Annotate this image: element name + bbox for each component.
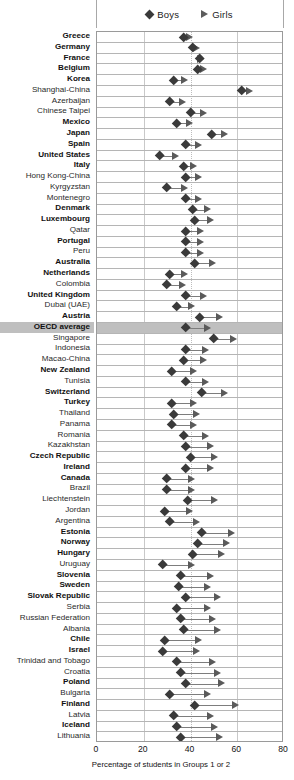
data-point-girls xyxy=(195,195,202,203)
legend-item-girls: Girls xyxy=(201,9,233,20)
table-row xyxy=(97,560,282,571)
category-label-dubai-uae: Dubai (UAE) xyxy=(45,300,90,311)
table-row xyxy=(97,43,282,54)
gender-gap-connector xyxy=(186,684,221,685)
data-point-girls xyxy=(230,335,237,343)
diamond-icon xyxy=(145,9,155,19)
data-point-boys xyxy=(178,431,188,441)
table-row xyxy=(97,280,282,291)
table-row xyxy=(97,603,282,614)
data-point-boys xyxy=(176,668,186,678)
data-point-girls xyxy=(216,313,223,321)
table-row xyxy=(97,366,282,377)
data-point-boys xyxy=(171,118,181,128)
data-point-girls xyxy=(193,647,200,655)
data-point-girls xyxy=(188,486,195,494)
table-row xyxy=(97,226,282,237)
data-point-girls xyxy=(195,141,202,149)
category-label-tunisia: Tunisia xyxy=(64,376,90,387)
table-row xyxy=(97,258,282,269)
chart-page: Boys Girls GreeceGermanyFranceBelgiumKor… xyxy=(0,0,294,780)
category-label-korea: Korea xyxy=(67,74,90,85)
data-point-girls xyxy=(179,98,186,106)
category-label-canada: Canada xyxy=(61,473,90,484)
data-point-boys xyxy=(171,301,181,311)
table-row xyxy=(97,484,282,495)
data-point-girls xyxy=(207,216,214,224)
category-label-montenegro: Montenegro xyxy=(47,193,90,204)
category-label-turkey: Turkey xyxy=(64,397,90,408)
data-point-boys xyxy=(185,452,195,462)
category-label-norway: Norway xyxy=(61,537,90,548)
category-label-hungary: Hungary xyxy=(57,548,90,559)
category-label-israel: Israel xyxy=(69,645,90,656)
category-label-oecd-average: OECD average xyxy=(0,322,94,333)
data-point-girls xyxy=(186,119,193,127)
category-label-austria: Austria xyxy=(62,311,90,322)
table-row xyxy=(97,711,282,722)
category-label-singapore: Singapore xyxy=(53,333,90,344)
category-label-sweden: Sweden xyxy=(59,580,90,591)
category-label-trinidad-and-tobago: Trinidad and Tobago xyxy=(17,656,90,667)
data-point-boys xyxy=(160,635,170,645)
data-point-girls xyxy=(223,539,230,547)
data-point-girls xyxy=(190,399,197,407)
data-point-boys xyxy=(185,107,195,117)
legend-label-girls: Girls xyxy=(212,9,233,20)
data-point-girls xyxy=(211,723,218,731)
data-point-girls xyxy=(209,658,216,666)
category-label-thailand: Thailand xyxy=(59,408,90,419)
table-row xyxy=(97,107,282,118)
x-tick-40: 40 xyxy=(185,744,195,754)
table-row xyxy=(97,495,282,506)
data-point-boys xyxy=(171,722,181,732)
category-label-japan: Japan xyxy=(67,128,90,139)
data-point-girls xyxy=(228,529,235,537)
data-point-boys xyxy=(157,560,167,570)
data-point-girls xyxy=(202,432,209,440)
data-point-boys xyxy=(162,474,172,484)
x-axis-title-text: Percentage of students in Groups 1 or 2 xyxy=(92,760,230,769)
category-label-latvia: Latvia xyxy=(68,710,90,721)
table-row xyxy=(97,32,282,43)
data-point-boys xyxy=(174,581,184,591)
data-point-girls xyxy=(193,518,200,526)
table-row xyxy=(97,635,282,646)
data-point-boys xyxy=(181,226,191,236)
data-point-girls xyxy=(216,733,223,741)
table-row xyxy=(97,204,282,215)
table-row xyxy=(97,668,282,679)
data-point-girls xyxy=(188,475,195,483)
data-point-boys xyxy=(181,172,191,182)
category-label-iceland: Iceland xyxy=(62,720,90,731)
data-point-girls xyxy=(172,152,179,160)
chart-legend: Boys Girls xyxy=(0,0,294,28)
table-row xyxy=(97,97,282,108)
category-label-switzerland: Switzerland xyxy=(45,387,90,398)
table-row xyxy=(97,700,282,711)
category-label-serbia: Serbia xyxy=(67,602,90,613)
category-label-liechtenstein: Liechtenstein xyxy=(42,494,90,505)
data-point-boys xyxy=(169,711,179,721)
category-label-jordan: Jordan xyxy=(65,505,90,516)
data-point-boys xyxy=(160,506,170,516)
category-label-croatia: Croatia xyxy=(64,667,90,678)
data-point-girls xyxy=(221,130,228,138)
category-label-romania: Romania xyxy=(58,430,90,441)
category-label-spain: Spain xyxy=(68,139,90,150)
table-row xyxy=(97,678,282,689)
table-row xyxy=(97,474,282,485)
category-label-chile: Chile xyxy=(70,634,90,645)
table-row xyxy=(97,657,282,668)
table-row xyxy=(97,377,282,388)
gender-gap-connector xyxy=(181,619,211,620)
data-point-girls xyxy=(188,302,195,310)
table-row xyxy=(97,355,282,366)
category-axis-labels: GreeceGermanyFranceBelgiumKoreaShanghai-… xyxy=(0,31,94,742)
category-label-slovenia: Slovenia xyxy=(57,570,90,581)
data-point-boys xyxy=(181,463,191,473)
table-row xyxy=(97,463,282,474)
category-label-france: France xyxy=(63,53,90,64)
data-point-boys xyxy=(164,97,174,107)
legend-right-rule xyxy=(283,0,284,28)
